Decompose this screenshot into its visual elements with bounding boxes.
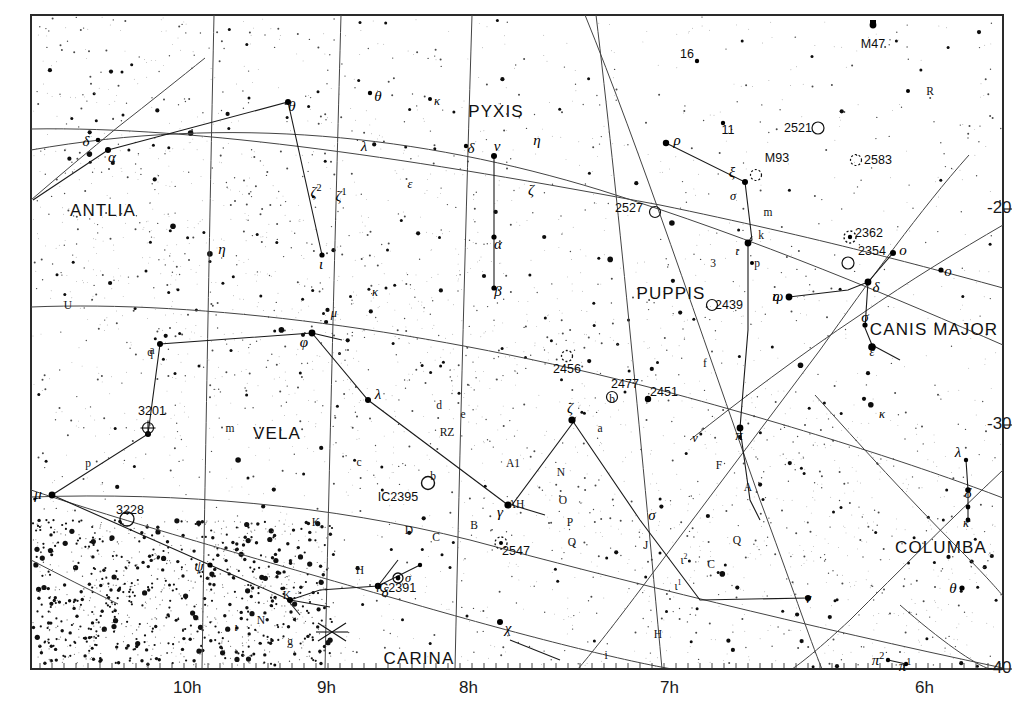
star-label-24: ξ [729,164,735,181]
star-label-77: H [654,628,662,640]
constellation-name-pyxis: PYXIS [468,102,524,122]
ra-axis-label-7h: 7h [660,678,679,698]
superscript: 1 [678,578,682,587]
star-label-6: δ [468,140,475,157]
star-label-29: ι [735,244,738,259]
star-label-64: a [597,422,602,434]
dso-label-2451: 2451 [650,385,678,399]
star-label-12: ζ1 [335,186,346,205]
star-label-56: H [356,564,364,576]
star-label-67: π [735,427,743,444]
star-label-87: K [283,589,291,601]
dec-axis-label--40: -40 [987,658,1012,678]
constellation-name-canis-major: CANIS MAJOR [870,320,998,340]
star-label-75: Q [733,534,741,546]
superscript: 1 [906,656,911,667]
star-label-42: p [85,457,91,469]
star-label-0: δ [83,133,90,150]
star-label-74: ι1 [674,578,681,592]
star-label-89: N [257,614,265,626]
star-label-7: ν [494,138,501,155]
dso-label-2439: 2439 [715,298,743,312]
star-label-44: λ [375,386,382,403]
star-label-5: η [533,132,540,149]
star-label-36: δ [873,279,880,296]
star-label-38: ε [870,345,875,360]
star-label-57: σ [405,571,411,586]
star-label-71: J [644,539,648,551]
star-label-53: B [470,519,478,531]
star-label-31: R [926,85,934,97]
star-label-88: ψ [194,558,203,575]
star-label-48: c [356,456,361,468]
star-label-58: ζ [567,400,573,417]
star-label-14: β [494,283,501,300]
dec-axis-label--20: -20 [987,198,1012,218]
constellation-name-antlia: ANTLIA [70,201,136,221]
star-label-27: k [758,229,764,241]
star-label-80: λ [955,444,962,461]
star-label-78: i [604,649,607,661]
star-label-73: C [707,558,715,570]
star-label-33: o [944,263,952,280]
star-label-1: α [108,149,116,166]
star-label-11: ζ2 [310,182,321,201]
superscript: 2 [316,182,321,193]
star-label-70: σ [648,507,655,524]
star-label-63: b [609,393,615,405]
dso-label-2521: 2521 [784,121,812,135]
star-label-21: 16 [680,47,694,61]
star-label-85: π1 [899,656,912,675]
star-label-8: λ [361,138,368,155]
star-label-90: g [287,635,293,647]
star-label-45: d [436,399,442,411]
star-label-69: A [744,481,752,493]
dso-label-3228: 3228 [116,503,144,517]
star-label-28: 3 [710,257,716,269]
star-label-15: ι [319,256,323,273]
star-label-25: σ [730,189,736,204]
star-label-59: N [557,466,565,478]
marker-2362-core [848,235,852,239]
star-label-10: ε [408,177,413,192]
dso-label-2477: 2477 [611,377,639,391]
dso-label-2583: 2583 [864,153,892,167]
star-label-35: η [772,288,779,305]
star-chart: -20 -30 -40 10h 9h 8h 7h 6h ANTLIAPYXISP… [0,0,1023,705]
star-label-72: ι2 [680,552,687,566]
star-label-49: b [430,470,436,482]
constellation-name-puppis: PUPPIS [637,284,706,304]
star-label-68: F [716,459,722,471]
star-label-3: θ [374,88,381,105]
superscript: 2 [684,552,688,561]
star-label-65: f [703,357,707,369]
star-label-51: AH [508,498,525,510]
ra-axis-label-10h: 10h [173,678,201,698]
dso-label-2547: 2547 [502,544,530,558]
dso-label-2354: 2354 [858,244,886,258]
star-label-91: δ [382,584,389,601]
star-label-16: η [218,241,225,258]
constellation-name-columba: COLUMBA [895,538,987,558]
dso-label-2456: 2456 [553,362,581,376]
star-label-22: 11 [722,123,735,137]
star-label-83: θ [949,580,956,597]
star-label-9: ζ [528,182,534,199]
star-label-41: m [226,422,235,434]
star-label-4: κ [434,94,440,109]
superscript: 2 [879,650,884,661]
ra-axis-label-8h: 8h [459,678,478,698]
superscript: 1 [341,186,346,197]
star-label-43: μ [34,486,42,503]
star-label-26: m [764,206,773,218]
star-label-13: α [494,236,502,253]
star-label-60: O [559,494,567,506]
dec-axis-label--30: -30 [987,414,1012,434]
star-label-86: K [312,516,320,528]
ra-axis-label-9h: 9h [317,678,336,698]
star-label-46: e [460,408,465,420]
ra-axis-label-6h: 6h [915,678,934,698]
star-label-40: φ [300,334,308,351]
star-label-54: D [405,524,413,536]
star-label-32: o [899,242,907,259]
